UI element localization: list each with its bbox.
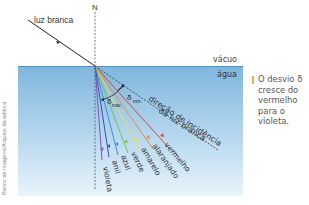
image-credit: Banco de imagens/Arquivo da editora	[1, 102, 7, 195]
delta-max-sub: máx.	[112, 103, 122, 108]
vacuum-label: vácuo	[213, 55, 237, 64]
delta-min-sub: mín.	[133, 99, 142, 104]
water-label: água	[217, 70, 237, 79]
incident-label: luz branca	[34, 15, 73, 25]
delta-min-label: δ	[127, 93, 132, 102]
side-note: O desvio δ cresce do vermelho para o vio…	[258, 74, 308, 127]
incident-ray	[28, 20, 95, 66]
note-accent-bar	[252, 76, 254, 84]
normal-label: N	[92, 3, 98, 12]
